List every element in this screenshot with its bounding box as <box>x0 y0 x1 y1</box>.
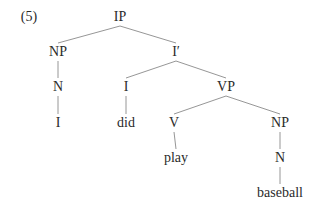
edge-ibar-vp <box>176 61 226 78</box>
edge-ibar-i <box>126 61 176 78</box>
edge-vp-np2 <box>226 96 280 114</box>
edge-v-w_play <box>174 132 176 149</box>
tree-node-i: I <box>124 79 129 95</box>
tree-node-w_baseball: baseball <box>257 185 303 201</box>
edge-ip-ibar <box>120 26 176 43</box>
tree-node-v: V <box>169 115 179 131</box>
example-number: (5) <box>21 9 37 25</box>
edge-ip-np1 <box>58 26 120 43</box>
tree-edges <box>0 0 316 212</box>
tree-node-vp: VP <box>217 79 235 95</box>
tree-node-n1: N <box>53 79 63 95</box>
tree-node-ip: IP <box>114 9 126 25</box>
tree-node-n2: N <box>275 150 285 166</box>
tree-node-w_play: play <box>164 150 188 166</box>
tree-node-w_did: did <box>117 115 135 131</box>
tree-node-ibar: I′ <box>172 44 180 60</box>
tree-node-w_i: I <box>56 115 61 131</box>
tree-node-np2: NP <box>271 115 289 131</box>
tree-node-np1: NP <box>49 44 67 60</box>
edge-vp-v <box>174 96 226 114</box>
